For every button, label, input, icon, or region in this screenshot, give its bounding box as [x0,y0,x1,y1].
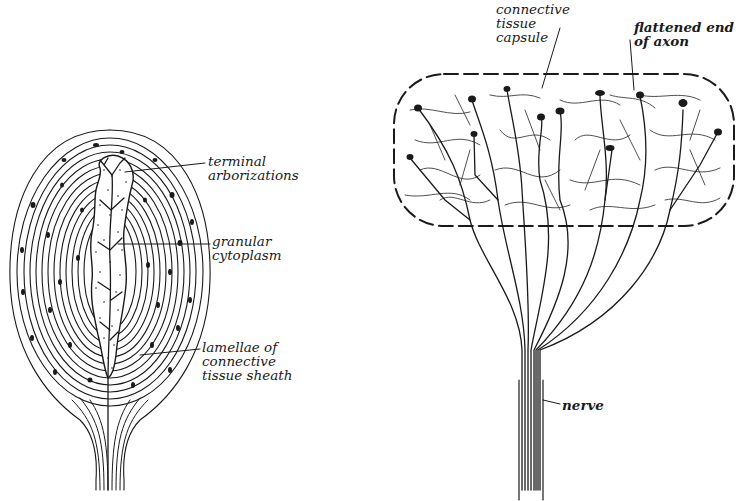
lamellated-corpuscle [10,130,210,490]
label-flattened-end-of-axon: flattened end of axon [634,20,734,48]
leader-lines-right [542,28,634,404]
leader-lines-left [118,163,210,355]
illustration-canvas [0,0,749,501]
label-terminal-arborizations: terminal arborizations [208,154,299,182]
encapsulated-ending [394,28,734,500]
label-lamellae-sheath: lamellae of connective tissue sheath [202,340,292,382]
label-nerve: nerve [562,398,604,412]
label-granular-cytoplasm: granular cytoplasm [212,234,281,262]
axon-endings [407,86,723,160]
stalk-fibres [72,398,148,490]
label-connective-tissue-capsule: connective tissue capsule [496,2,570,44]
axon-branches [410,90,718,490]
